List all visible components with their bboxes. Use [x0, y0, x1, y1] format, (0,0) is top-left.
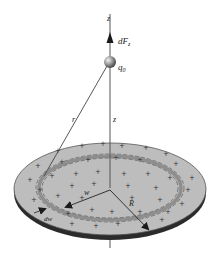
test-charge-sphere — [104, 56, 116, 68]
plus-charge: + — [89, 206, 95, 214]
plus-charge: + — [137, 208, 143, 216]
plus-charge: + — [27, 176, 33, 184]
plus-charge: + — [115, 220, 121, 228]
plus-charge: + — [35, 162, 41, 170]
plus-charge: + — [121, 170, 127, 178]
plus-charge: + — [179, 200, 185, 208]
r-label: r — [72, 115, 76, 124]
plus-charge: + — [100, 140, 106, 148]
plus-charge: + — [125, 182, 131, 190]
plus-charge: + — [189, 174, 195, 182]
R-label: R — [128, 199, 134, 208]
plus-charge: + — [79, 142, 85, 150]
plus-charge: + — [165, 208, 171, 216]
plus-charge: + — [119, 142, 125, 150]
charge-label: q0 — [118, 62, 126, 73]
plus-charge: + — [153, 184, 159, 192]
force-label: dFz — [118, 36, 131, 47]
plus-charge: + — [167, 174, 173, 182]
plus-charge: + — [85, 156, 91, 164]
plus-charge: + — [49, 172, 55, 180]
plus-charge: + — [31, 196, 37, 204]
plus-charge: + — [65, 210, 71, 218]
plus-charge: + — [145, 170, 151, 178]
dw-label: dw — [44, 215, 53, 223]
w-label: w — [84, 188, 90, 197]
plus-charge: + — [37, 186, 43, 194]
plus-charge: + — [91, 180, 97, 188]
plus-charge: + — [159, 216, 165, 224]
plus-charge: + — [137, 156, 143, 164]
plus-charge: + — [69, 182, 75, 190]
charged-disk-diagram: ++++++++++++++++++++++++++++++++++++++++… — [0, 0, 218, 260]
z-distance-label: z — [112, 115, 117, 124]
plus-charge: + — [113, 154, 119, 162]
plus-charge: + — [73, 170, 79, 178]
plus-charge: + — [69, 220, 75, 228]
plus-charge: + — [163, 150, 169, 158]
plus-charge: + — [95, 168, 101, 176]
plus-charge: + — [93, 222, 99, 230]
plus-charge: + — [59, 158, 65, 166]
plus-charge: + — [109, 208, 115, 216]
plus-charge: + — [157, 196, 163, 204]
plus-charge: + — [143, 144, 149, 152]
force-arrow-icon — [107, 32, 114, 43]
plus-charge: + — [185, 186, 191, 194]
plus-charge: + — [55, 192, 61, 200]
plus-charge: + — [173, 160, 179, 168]
